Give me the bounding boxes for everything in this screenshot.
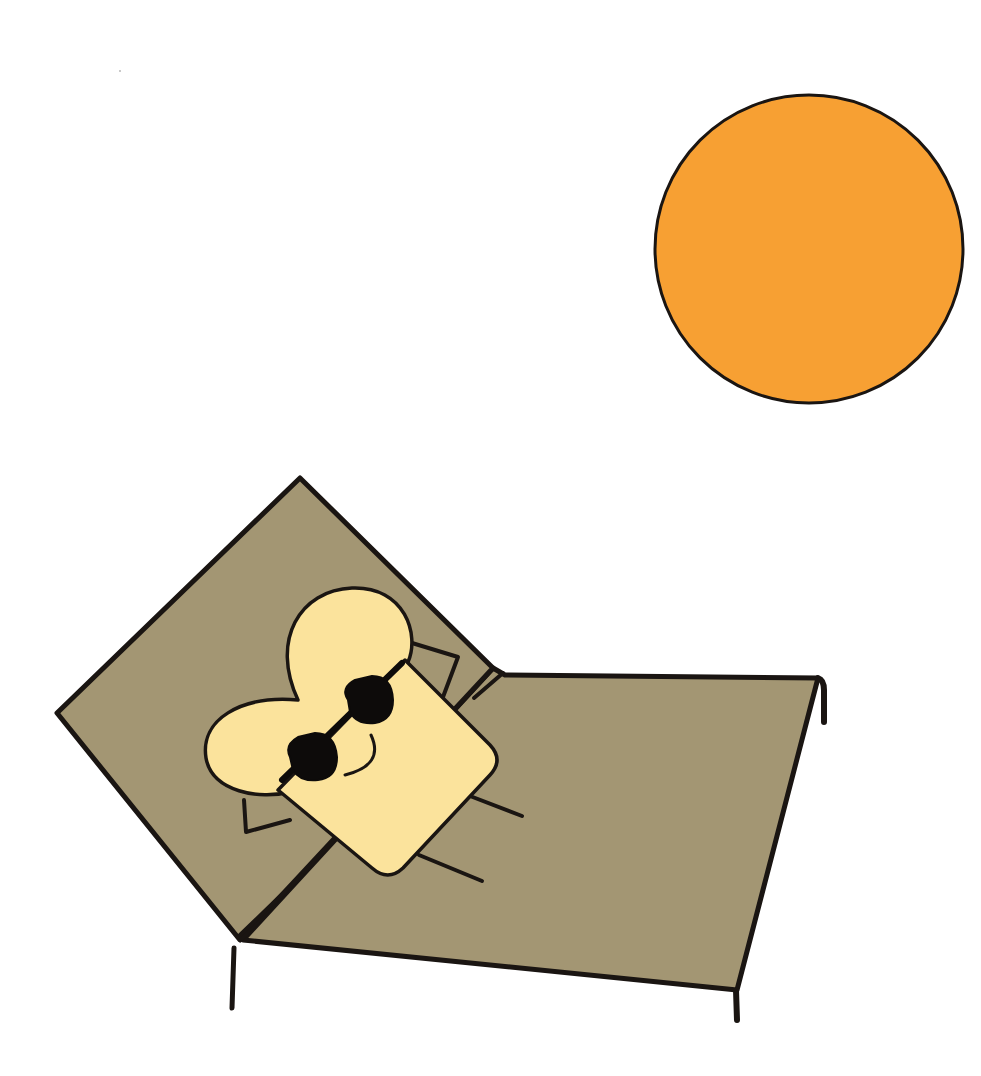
chair-leg-back-right [818,678,824,722]
sun-icon [655,95,963,403]
chair-leg-front-right [736,990,737,1020]
speck [119,70,121,72]
illustration-canvas [0,0,981,1076]
chair-leg-back-left [232,948,234,1008]
